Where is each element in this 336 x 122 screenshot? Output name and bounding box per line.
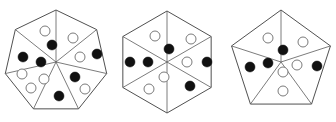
heptagon-filled-dot-7 [54,91,64,101]
polygon-figure-canvas [0,0,336,122]
shape-group-hexagon [123,11,212,113]
heptagon-open-dot-0 [40,26,50,36]
heptagon-filled-dot-11 [18,52,28,62]
heptagon-open-dot-3 [75,52,85,62]
heptagon-open-dot-9 [26,83,36,93]
hexagon-open-dot-0 [150,31,160,41]
heptagon-open-dot-12 [17,69,27,79]
pentagon-open-dot-5 [278,67,288,77]
shape-group-pentagon [232,10,331,104]
pentagon-open-dot-2 [298,37,308,47]
hexagon-open-dot-7 [144,84,154,94]
hexagon-filled-dot-8 [143,57,153,67]
hexagon-filled-dot-9 [125,57,135,67]
hexagon-filled-dot-1 [164,44,174,54]
pentagon-filled-dot-1 [278,45,288,55]
heptagon-filled-dot-10 [36,57,46,67]
heptagon-open-dot-2 [68,33,78,43]
pentagon-filled-dot-7 [263,58,273,68]
hexagon-open-dot-2 [186,34,196,44]
hexagon-filled-dot-5 [185,81,195,91]
heptagon-filled-dot-5 [70,72,80,82]
hexagon-open-dot-3 [182,57,192,67]
pentagon-filled-dot-8 [245,62,255,72]
heptagon-open-dot-8 [39,74,49,84]
pentagon-open-dot-3 [292,60,302,70]
pentagon-open-dot-0 [263,33,273,43]
heptagon-filled-dot-1 [47,40,57,50]
pentagon-filled-dot-4 [312,61,322,71]
pentagon-open-dot-6 [278,86,288,96]
heptagon-filled-dot-4 [92,49,102,59]
hexagon-filled-dot-4 [202,57,212,67]
shape-group-heptagon [5,10,106,109]
heptagon-open-dot-6 [80,84,90,94]
hexagon-open-dot-6 [159,72,169,82]
